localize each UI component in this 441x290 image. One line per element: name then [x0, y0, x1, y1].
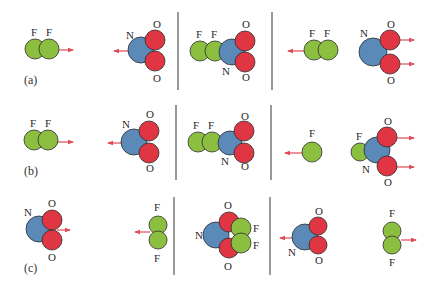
atom-label: N: [195, 229, 203, 241]
atom-label: F: [208, 119, 214, 131]
atom-label: N: [288, 246, 296, 258]
atom-f: [302, 142, 322, 162]
atom-label: F: [45, 117, 51, 129]
atom-label: O: [242, 71, 250, 83]
atom-label: N: [126, 29, 134, 41]
dipole-interaction-diagram: FFNOOFFNOOFFNOOFFNOOFFNOOFFNOONOOFFNOOFF…: [0, 0, 441, 290]
atom-label: F: [309, 27, 315, 39]
atom-f: [38, 130, 58, 150]
atom-o: [309, 217, 327, 235]
atom-f: [318, 40, 338, 60]
atom-o: [380, 30, 400, 50]
atom-o: [145, 51, 165, 71]
atom-label: F: [253, 239, 259, 251]
atom-label: F: [193, 119, 199, 131]
atom-label: F: [211, 28, 217, 40]
atom-label: O: [224, 260, 232, 272]
atom-o: [139, 143, 159, 163]
atom-label: O: [242, 18, 250, 30]
atom-label: N: [222, 65, 230, 77]
atom-label: N: [24, 206, 32, 218]
atom-label: F: [46, 26, 52, 38]
atom-o: [235, 31, 255, 51]
atom-label: N: [360, 27, 368, 39]
atom-label: O: [241, 110, 249, 122]
atom-o: [234, 121, 254, 141]
atom-label: O: [387, 18, 395, 30]
atom-o: [145, 30, 165, 50]
atom-label: N: [122, 118, 130, 130]
atom-label: O: [315, 254, 323, 266]
atom-label: F: [389, 256, 395, 268]
atom-label: O: [384, 115, 392, 127]
atom-label: O: [241, 160, 249, 172]
atom-label: F: [154, 252, 160, 264]
atom-label: F: [356, 130, 362, 142]
atom-o: [42, 230, 62, 250]
atom-o: [377, 156, 397, 176]
atom-label: O: [48, 197, 56, 209]
atoms: [24, 30, 401, 258]
atom-label: O: [384, 176, 392, 188]
atom-f: [39, 39, 59, 59]
atom-label: O: [224, 199, 232, 211]
diagram-canvas: FFNOOFFNOOFFNOOFFNOOFFNOOFFNOONOOFFNOOFF…: [0, 0, 441, 290]
atom-o: [309, 236, 327, 254]
panel-label: (c): [24, 261, 37, 275]
panel-labels: (a)(b)(c): [24, 73, 38, 275]
atom-label: O: [146, 162, 154, 174]
atom-f: [383, 236, 401, 254]
atom-o: [380, 54, 400, 74]
atom-label: O: [48, 251, 56, 263]
atom-label: F: [31, 26, 37, 38]
atom-f: [231, 233, 251, 253]
panel-label: (b): [24, 164, 38, 178]
atom-o: [42, 210, 62, 230]
atom-o: [139, 121, 159, 141]
atom-label: F: [324, 27, 330, 39]
atom-label: O: [146, 108, 154, 120]
panel-label: (a): [24, 73, 37, 87]
atom-label: N: [221, 155, 229, 167]
atom-label: F: [196, 28, 202, 40]
atom-label: O: [153, 72, 161, 84]
atom-label: F: [30, 117, 36, 129]
atom-o: [235, 52, 255, 72]
atom-label: O: [315, 205, 323, 217]
atom-label: O: [153, 18, 161, 30]
atom-label: O: [387, 74, 395, 86]
atom-label: F: [253, 222, 259, 234]
atom-label: F: [389, 207, 395, 219]
atom-f: [149, 231, 167, 249]
atom-label: F: [309, 127, 315, 139]
atom-label: F: [154, 201, 160, 213]
atom-label: N: [362, 163, 370, 175]
atom-o: [377, 127, 397, 147]
